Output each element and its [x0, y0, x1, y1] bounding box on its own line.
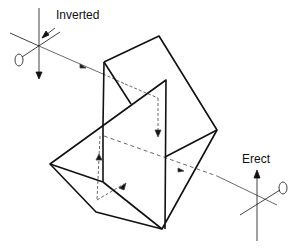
light-ray	[39, 46, 277, 205]
input-axes	[10, 8, 60, 79]
output-axes	[240, 170, 287, 241]
erect-label: Erect	[242, 152, 270, 166]
prism-edges	[50, 36, 217, 229]
inverted-label: Inverted	[56, 8, 99, 22]
prism-drawing	[0, 0, 296, 249]
prism-diagram: Inverted Erect	[0, 0, 296, 249]
